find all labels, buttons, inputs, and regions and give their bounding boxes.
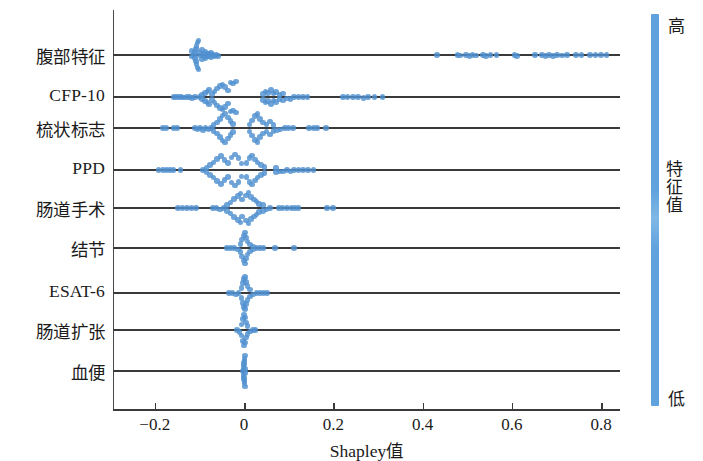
x-tick-label-2: 0 [240, 415, 249, 435]
colorbar-legend: 高 特征值 低 [640, 10, 703, 410]
colorbar-high-label: 高 [668, 12, 685, 37]
beeswarm-point [314, 125, 320, 131]
colorbar-low-label: 低 [668, 385, 685, 410]
beeswarm-point [473, 53, 479, 59]
beeswarm-point [174, 125, 180, 131]
beeswarm-point [434, 52, 440, 58]
beeswarm-point [253, 327, 259, 333]
beeswarm-point [230, 129, 236, 135]
y-axis-label-1: 腹部特征 [0, 43, 105, 68]
beeswarm-point [380, 94, 386, 100]
beeswarm-point [264, 290, 270, 296]
beeswarm-point [244, 160, 250, 166]
beeswarm-point [296, 205, 302, 211]
x-tick-label-1: −0.2 [139, 415, 170, 435]
beeswarm-point [272, 245, 278, 251]
y-axis-label-8: 肠道扩张 [0, 318, 105, 343]
beeswarm-point [242, 340, 248, 346]
beeswarm-point [372, 94, 378, 100]
beeswarm-point [215, 53, 221, 59]
beeswarm-point [290, 125, 296, 131]
beeswarm-point [225, 88, 231, 94]
x-tick-1 [155, 403, 157, 410]
y-axis-label-9: 血便 [0, 359, 105, 384]
beeswarm-point [164, 125, 170, 131]
beeswarm-point [291, 245, 297, 251]
beeswarm-row-3 [113, 105, 620, 151]
x-axis: −0.200.20.40.60.8 [113, 409, 620, 411]
plot-area [113, 10, 620, 410]
beeswarm-point [225, 160, 231, 166]
beeswarm-point [233, 79, 239, 85]
beeswarm-point [178, 167, 184, 173]
beeswarm-point [262, 170, 268, 176]
x-tick-4 [423, 403, 425, 410]
beeswarm-point [225, 174, 231, 180]
beeswarm-row-8 [113, 307, 620, 353]
beeswarm-point [604, 52, 610, 58]
beeswarm-point [324, 205, 330, 211]
colorbar-gradient [651, 14, 659, 406]
beeswarm-point [230, 121, 236, 127]
beeswarm-point [189, 48, 195, 54]
beeswarm-point [305, 94, 311, 100]
beeswarm-point [365, 94, 371, 100]
y-axis-label-2: CFP-10 [0, 85, 105, 106]
beeswarm-row-6 [113, 225, 620, 271]
shap-beeswarm-figure: 腹部特征CFP-10梳状标志PPD肠道手术结节ESAT-6肠道扩张血便 −0.2… [0, 0, 703, 461]
x-axis-title: Shapley值 [113, 437, 620, 461]
x-tick-5 [512, 403, 514, 410]
beeswarm-point [573, 52, 579, 58]
beeswarm-point [261, 245, 267, 251]
beeswarm-point [242, 366, 248, 372]
x-tick-2 [244, 403, 246, 410]
x-tick-label-3: 0.2 [323, 415, 344, 435]
beeswarm-point [196, 38, 202, 44]
beeswarm-point [196, 67, 202, 73]
y-axis-label-5: 肠道手术 [0, 196, 105, 221]
colorbar-title: 特征值 [660, 160, 685, 214]
beeswarm-row-9 [113, 348, 620, 394]
beeswarm-row-1 [113, 32, 620, 78]
beeswarm-point [311, 167, 317, 173]
beeswarm-point [255, 139, 261, 145]
beeswarm-point [330, 205, 336, 211]
y-axis-label-3: 梳状标志 [0, 116, 105, 141]
beeswarm-point [514, 53, 520, 59]
y-axis-label-7: ESAT-6 [0, 281, 105, 302]
y-axis-labels: 腹部特征CFP-10梳状标志PPD肠道手术结节ESAT-6肠道扩张血便 [0, 0, 105, 420]
beeswarm-point [242, 261, 248, 267]
beeswarm-point [193, 205, 199, 211]
beeswarm-point [564, 52, 570, 58]
x-tick-6 [601, 403, 603, 410]
beeswarm-point [236, 179, 242, 185]
beeswarm-point [457, 53, 463, 59]
beeswarm-point [579, 52, 585, 58]
y-axis-label-4: PPD [0, 158, 105, 179]
beeswarm-point [488, 52, 494, 58]
beeswarm-point [171, 167, 177, 173]
beeswarm-point [262, 164, 268, 170]
beeswarm-point [239, 285, 245, 291]
x-tick-label-4: 0.4 [412, 415, 433, 435]
x-tick-label-6: 0.8 [590, 415, 611, 435]
beeswarm-point [494, 52, 500, 58]
beeswarm-point [323, 125, 329, 131]
beeswarm-point [532, 52, 538, 58]
beeswarm-point [242, 384, 248, 390]
beeswarm-point [267, 205, 273, 211]
x-tick-3 [333, 403, 335, 410]
beeswarm-point [598, 52, 604, 58]
x-tick-label-5: 0.6 [501, 415, 522, 435]
y-axis-label-6: 结节 [0, 236, 105, 261]
